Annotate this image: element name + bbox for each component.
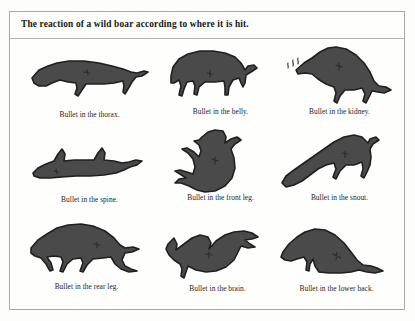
caption-front-leg: Bullet in the front leg. bbox=[155, 193, 286, 202]
caption-lower-back: Bullet in the lower back. bbox=[271, 284, 402, 293]
panel-snout: Bullet in the snout. bbox=[274, 125, 405, 215]
boar-figure-thorax bbox=[24, 42, 155, 112]
boar-figure-rear-leg bbox=[21, 214, 152, 284]
caption-belly: Bullet in the belly. bbox=[155, 107, 286, 116]
boar-figure-belly bbox=[155, 39, 286, 109]
panel-front-leg: Bullet in the front leg. bbox=[155, 125, 286, 215]
caption-rear-leg: Bullet in the rear leg. bbox=[21, 282, 152, 291]
caption-spine: Bullet in the spine. bbox=[24, 195, 155, 204]
page-root: The reaction of a wild boar according to… bbox=[0, 0, 415, 321]
panel-kidney: Bullet in the kidney. bbox=[274, 39, 405, 129]
caption-thorax: Bullet in the thorax. bbox=[24, 110, 155, 119]
boar-figure-front-leg bbox=[155, 125, 286, 195]
boar-panel-grid: Bullet in the thorax. Bullet in the bell… bbox=[10, 39, 404, 310]
panel-lower-back: Bullet in the lower back. bbox=[271, 216, 402, 306]
caption-kidney: Bullet in the kidney. bbox=[274, 107, 405, 116]
caption-brain: Bullet in the brain. bbox=[152, 284, 283, 293]
page-title: The reaction of a wild boar according to… bbox=[21, 19, 249, 29]
boar-figure-lower-back bbox=[271, 216, 402, 286]
boar-figure-spine bbox=[24, 127, 155, 197]
boar-figure-kidney bbox=[274, 39, 405, 109]
spray-marks bbox=[288, 58, 299, 68]
caption-snout: Bullet in the snout. bbox=[274, 193, 405, 202]
panel-belly: Bullet in the belly. bbox=[155, 39, 286, 129]
panel-thorax: Bullet in the thorax. bbox=[24, 42, 155, 132]
panel-brain: Bullet in the brain. bbox=[152, 216, 283, 306]
panel-rear-leg: Bullet in the rear leg. bbox=[21, 214, 152, 304]
boar-figure-snout bbox=[274, 125, 405, 195]
boar-figure-brain bbox=[152, 216, 283, 286]
panel-spine: Bullet in the spine. bbox=[24, 127, 155, 217]
illustration-plate: The reaction of a wild boar according to… bbox=[9, 11, 405, 310]
